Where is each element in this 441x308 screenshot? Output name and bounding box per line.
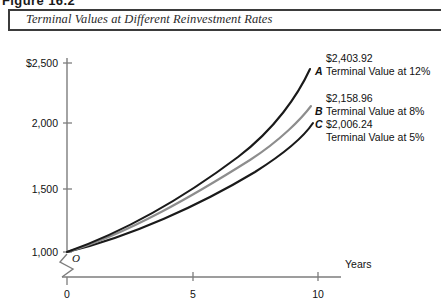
y-tick-label-2000: 2,000 [12, 117, 58, 129]
annotation-c-description: Terminal Value at 5% [326, 131, 424, 144]
y-tick-label-1000: 1,000 [12, 246, 58, 258]
annotation-key-c: C [315, 118, 323, 130]
annotation-b-description: Terminal Value at 8% [326, 105, 424, 118]
x-tick-label-10: 10 [307, 288, 329, 300]
y-tick-label-1500: 1,500 [12, 183, 58, 195]
annotation-b-value: $2,158.96 [326, 92, 424, 105]
annotation-c-value: $2,006.24 [326, 118, 424, 131]
annotation-a-description: Terminal Value at 12% [326, 65, 430, 78]
annotation-a-value: $2,403.92 [326, 52, 430, 65]
annotation-a: $2,403.92 Terminal Value at 12% [326, 52, 430, 78]
annotation-c: $2,006.24 Terminal Value at 5% [326, 118, 424, 144]
annotation-b: $2,158.96 Terminal Value at 8% [326, 92, 424, 118]
y-tick-label-2500: $2,500 [12, 57, 58, 69]
x-tick-label-0: 0 [56, 288, 78, 300]
annotation-key-a: A [315, 65, 323, 77]
x-axis-name: Years [345, 258, 371, 270]
chart-plot-area [0, 0, 441, 308]
annotation-key-b: B [315, 105, 323, 117]
figure-container: Figure 16.2 Terminal Values at Different… [0, 0, 441, 308]
origin-marker-label: O [72, 252, 80, 264]
curve-b-8-percent [67, 106, 311, 252]
x-tick-label-5: 5 [182, 288, 204, 300]
